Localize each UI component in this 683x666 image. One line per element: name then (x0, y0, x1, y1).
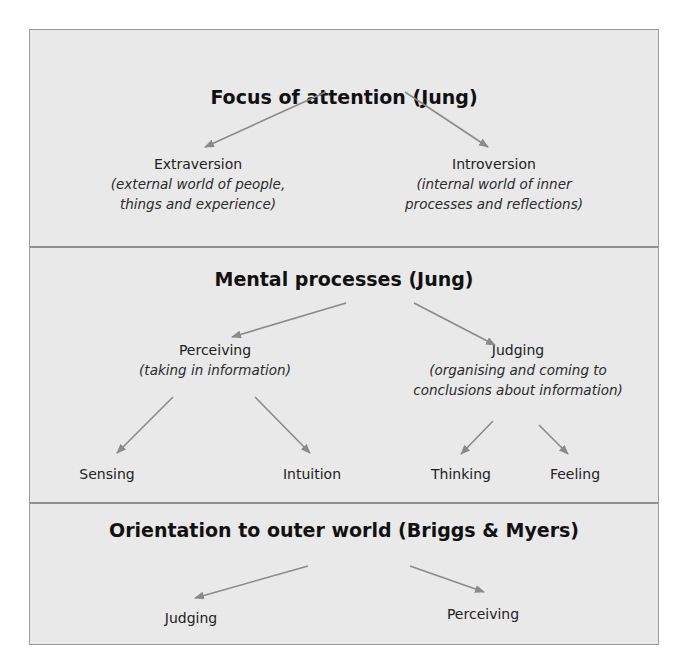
node-label: Judging (165, 608, 217, 628)
node-orientation-perceiving: Perceiving (447, 604, 519, 624)
node-introversion: Introversion (internal world of inner pr… (405, 154, 583, 214)
leaf-label: Feeling (550, 464, 600, 484)
section-title-mental-processes: Mental processes (Jung) (30, 268, 658, 290)
node-label: Extraversion (111, 154, 285, 174)
node-description: (taking in information) (139, 360, 291, 380)
leaf-thinking: Thinking (431, 464, 491, 484)
node-description: (external world of people, (111, 174, 285, 194)
leaf-label: Intuition (283, 464, 341, 484)
leaf-intuition: Intuition (283, 464, 341, 484)
node-description: (internal world of inner (405, 174, 583, 194)
node-judging: Judging (organising and coming to conclu… (413, 340, 623, 400)
leaf-feeling: Feeling (550, 464, 600, 484)
node-extraversion: Extraversion (external world of people, … (111, 154, 285, 214)
node-description: (organising and coming to (413, 360, 623, 380)
leaf-label: Sensing (79, 464, 134, 484)
node-label: Introversion (405, 154, 583, 174)
node-orientation-judging: Judging (165, 608, 217, 628)
node-description: processes and reflections) (405, 194, 583, 214)
personality-types-diagram: Focus of attention (Jung) Extraversion (… (29, 29, 659, 645)
node-description: conclusions about information) (413, 380, 623, 400)
node-label: Perceiving (139, 340, 291, 360)
section-orientation-to-outer-world: Orientation to outer world (Briggs & Mye… (30, 504, 658, 644)
section-mental-processes: Mental processes (Jung) Perceiving (taki… (30, 248, 658, 503)
node-label: Judging (413, 340, 623, 360)
section-title-focus-of-attention: Focus of attention (Jung) (30, 86, 658, 108)
leaf-label: Thinking (431, 464, 491, 484)
section-title-orientation: Orientation to outer world (Briggs & Mye… (30, 519, 658, 541)
node-perceiving: Perceiving (taking in information) (139, 340, 291, 380)
leaf-sensing: Sensing (79, 464, 134, 484)
node-description: things and experience) (111, 194, 285, 214)
node-label: Perceiving (447, 604, 519, 624)
section-focus-of-attention: Focus of attention (Jung) Extraversion (… (30, 30, 658, 246)
